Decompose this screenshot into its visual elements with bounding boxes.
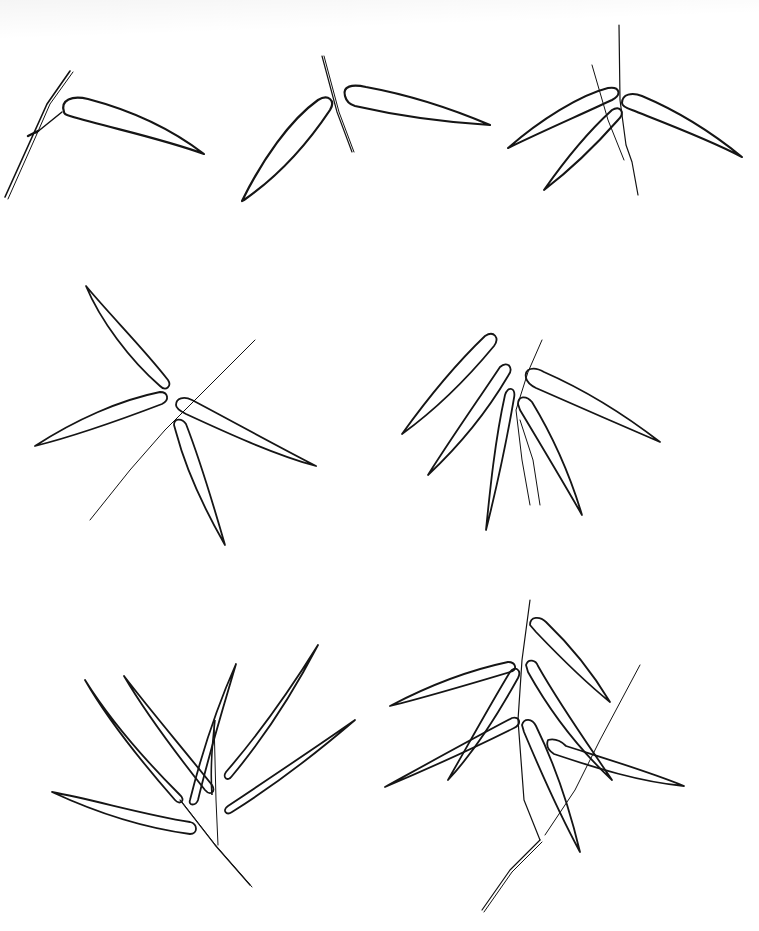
bamboo-drawing	[0, 0, 759, 931]
panel-1	[5, 71, 204, 199]
panel-4	[35, 286, 316, 545]
paper-shadow	[0, 0, 759, 40]
panel-6	[52, 645, 355, 887]
panel-3	[508, 25, 742, 195]
panel-7	[385, 600, 684, 912]
panel-5	[402, 334, 660, 530]
panel-2	[242, 56, 490, 201]
